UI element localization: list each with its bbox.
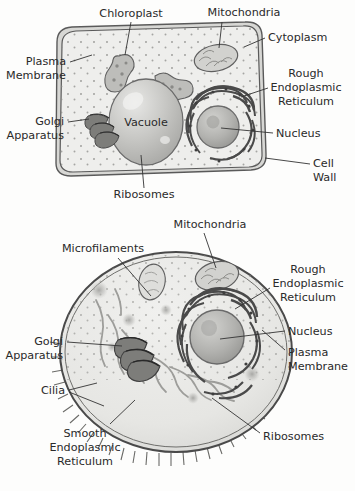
label-cytoplasm: Cytoplasm <box>268 31 327 44</box>
svg-text:Endoplasmic: Endoplasmic <box>272 277 343 290</box>
svg-text:Apparatus: Apparatus <box>6 349 64 362</box>
label-rough-er: Rough Endoplasmic Reticulum <box>270 67 341 108</box>
diagram-canvas: Chloroplast Mitochondria Cytoplasm Plasm… <box>0 0 355 491</box>
label-cell-wall: Cell Wall <box>313 157 336 184</box>
label-animal-ribosomes: Ribosomes <box>263 430 324 443</box>
svg-text:Golgi: Golgi <box>34 335 63 348</box>
svg-text:Rough: Rough <box>290 263 325 276</box>
label-chloroplast: Chloroplast <box>99 7 163 20</box>
nucleus-shape <box>197 106 239 148</box>
plant-cell-illustration <box>56 20 271 180</box>
svg-text:Cell: Cell <box>313 157 334 170</box>
label-animal-golgi-apparatus: Golgi Apparatus <box>6 335 64 362</box>
svg-text:Plasma: Plasma <box>288 346 328 359</box>
animal-ribosome-dots <box>60 255 295 380</box>
svg-text:Membrane: Membrane <box>288 360 348 373</box>
svg-text:Apparatus: Apparatus <box>7 129 65 142</box>
svg-text:Reticulum: Reticulum <box>280 291 336 304</box>
label-vacuole: Vacuole <box>124 116 168 129</box>
svg-text:Endoplasmic: Endoplasmic <box>270 81 341 94</box>
label-mitochondria: Mitochondria <box>208 6 281 19</box>
label-animal-plasma-membrane: Plasma Membrane <box>288 346 348 373</box>
label-golgi-apparatus: Golgi Apparatus <box>7 115 65 142</box>
svg-text:Reticulum: Reticulum <box>278 95 334 108</box>
svg-text:Reticulum: Reticulum <box>57 455 113 468</box>
svg-text:Rough: Rough <box>288 67 323 80</box>
label-ribosomes: Ribosomes <box>113 188 174 201</box>
svg-text:Endoplasmic: Endoplasmic <box>49 441 120 454</box>
label-plasma-membrane: Plasma Membrane <box>6 55 66 82</box>
label-cilia: Cilia <box>41 384 65 397</box>
label-animal-mitochondria: Mitochondria <box>174 218 247 231</box>
leader-cell-wall <box>265 158 310 164</box>
label-animal-rough-er: Rough Endoplasmic Reticulum <box>272 263 343 304</box>
label-nucleus: Nucleus <box>276 127 321 140</box>
svg-text:Wall: Wall <box>313 171 336 184</box>
svg-text:Smooth: Smooth <box>63 427 106 440</box>
label-microfilaments: Microfilaments <box>62 242 144 255</box>
cell-diagram-figure: Chloroplast Mitochondria Cytoplasm Plasm… <box>0 0 355 491</box>
svg-text:Plasma: Plasma <box>26 55 66 68</box>
label-animal-nucleus: Nucleus <box>288 325 333 338</box>
svg-text:Golgi: Golgi <box>35 115 64 128</box>
svg-text:Membrane: Membrane <box>6 69 66 82</box>
